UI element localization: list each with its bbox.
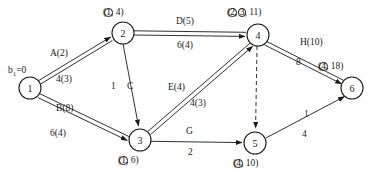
node-4-tag-value: 11 bbox=[249, 7, 258, 17]
edge-1-to-3-value: 6(4) bbox=[50, 129, 66, 139]
edge-2-to-4-name: D(5) bbox=[176, 17, 194, 27]
node-1[interactable]: 1 bbox=[19, 77, 41, 99]
circled-number-3: 3 bbox=[240, 8, 245, 18]
edge-5-to-6-name: 1 bbox=[304, 110, 309, 120]
edge-4-to-5-dashed bbox=[256, 46, 257, 128]
edge-2-to-3-name: C bbox=[127, 82, 133, 92]
svg-text:6: 6 bbox=[350, 83, 355, 94]
edge-1-to-2 bbox=[38, 37, 112, 84]
circled-number-1: 1 bbox=[121, 156, 126, 166]
node-5-tag: (4, 10) bbox=[233, 159, 258, 169]
node-2-tag: (1, 4) bbox=[103, 8, 124, 18]
edge-3-to-5-value: 2 bbox=[188, 148, 193, 158]
svg-text:5: 5 bbox=[253, 138, 258, 149]
edge-3-to-5-name: G bbox=[186, 127, 193, 137]
edge-3-to-5 bbox=[151, 141, 242, 142]
node-6-tag: (4, 18) bbox=[318, 62, 343, 72]
svg-text:3: 3 bbox=[138, 135, 143, 146]
node-5-tag-value: 10 bbox=[246, 158, 256, 168]
node-3[interactable]: 3 bbox=[129, 129, 151, 151]
node-2[interactable]: 2 bbox=[112, 22, 134, 44]
node-3-tag: (1, 6) bbox=[118, 156, 139, 166]
svg-text:1: 1 bbox=[28, 83, 33, 94]
edge-2-to-4-value: 6(4) bbox=[177, 41, 193, 51]
edge-2-to-3-value: 1 bbox=[111, 82, 116, 92]
node-4-tag: (2, 3, 11) bbox=[227, 8, 262, 18]
circled-number-4: 4 bbox=[236, 159, 241, 169]
edge-4-to-6-name: H(10) bbox=[300, 38, 323, 48]
edge-5-to-6-value: 4 bbox=[302, 130, 307, 140]
edge-1-to-3-name: B(8) bbox=[56, 104, 73, 114]
edge-3-to-4-name: E(4) bbox=[168, 83, 185, 93]
edge-1-to-2-value: 4(3) bbox=[56, 75, 72, 85]
edge-2-to-4 bbox=[134, 31, 246, 37]
edge-3-to-4 bbox=[148, 43, 253, 134]
source-supply-value: =0 bbox=[16, 65, 26, 75]
node-6-tag-value: 18 bbox=[331, 61, 341, 71]
edge-3-to-4-value: 4(3) bbox=[190, 99, 206, 109]
network-diagram: 1 2 3 4 5 6 b1=0 (1, 4) (1, 6) bbox=[0, 0, 379, 180]
circled-number-1: 1 bbox=[106, 8, 111, 18]
node-4[interactable]: 4 bbox=[247, 24, 269, 46]
circled-number-2: 2 bbox=[230, 8, 235, 18]
edge-1-to-2-name: A(2) bbox=[50, 49, 68, 59]
svg-text:4: 4 bbox=[256, 30, 261, 41]
circled-number-4: 4 bbox=[321, 62, 326, 72]
svg-text:2: 2 bbox=[121, 28, 126, 39]
source-supply-label: b1=0 bbox=[8, 66, 26, 78]
edge-4-to-6-value: 8 bbox=[296, 58, 301, 68]
node-5[interactable]: 5 bbox=[244, 132, 266, 154]
node-6[interactable]: 6 bbox=[341, 77, 363, 99]
